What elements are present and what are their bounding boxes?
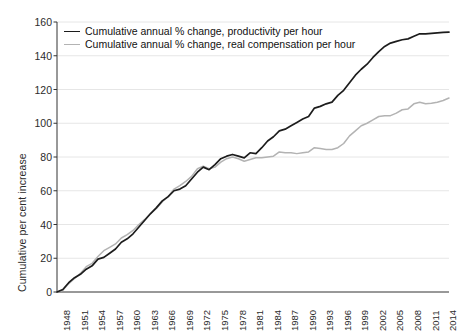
x-tick-label: 1984 (272, 310, 283, 331)
x-tick-label: 1993 (324, 310, 335, 331)
line-real-compensation (57, 98, 449, 292)
x-tick-label: 2014 (447, 310, 458, 331)
x-tick-label: 1981 (254, 310, 265, 331)
x-tick-label: 1966 (166, 310, 177, 331)
x-tick-label: 2002 (377, 310, 388, 331)
line-productivity (57, 32, 449, 292)
x-tick-label: 1963 (149, 310, 160, 331)
legend-item: Cumulative annual % change, productivity… (64, 25, 355, 38)
x-axis-ticks: 1948195119541957196019631966196919721975… (0, 297, 458, 335)
chart-legend: Cumulative annual % change, productivity… (64, 25, 355, 51)
legend-swatch-icon (64, 31, 80, 32)
chart-figure: Cumulative per cent increase 02040608010… (0, 0, 458, 335)
x-tick-label: 1948 (61, 310, 72, 331)
legend-item: Cumulative annual % change, real compens… (64, 38, 355, 51)
x-tick-label: 1987 (289, 310, 300, 331)
x-tick-label: 2005 (394, 310, 405, 331)
legend-label: Cumulative annual % change, real compens… (85, 38, 355, 51)
x-tick-label: 1960 (131, 310, 142, 331)
x-tick-label: 1978 (237, 310, 248, 331)
x-tick-label: 1972 (201, 310, 212, 331)
x-tick-label: 1990 (307, 310, 318, 331)
legend-swatch-icon (64, 44, 80, 45)
x-tick-label: 2008 (412, 310, 423, 331)
x-tick-label: 1957 (114, 310, 125, 331)
x-tick-label: 1951 (79, 310, 90, 331)
x-tick-label: 1975 (219, 310, 230, 331)
x-tick-label: 1954 (96, 310, 107, 331)
x-tick-label: 1996 (342, 310, 353, 331)
x-tick-label: 1969 (184, 310, 195, 331)
legend-label: Cumulative annual % change, productivity… (85, 25, 323, 38)
x-tick-label: 1999 (359, 310, 370, 331)
x-tick-label: 2011 (430, 311, 441, 331)
